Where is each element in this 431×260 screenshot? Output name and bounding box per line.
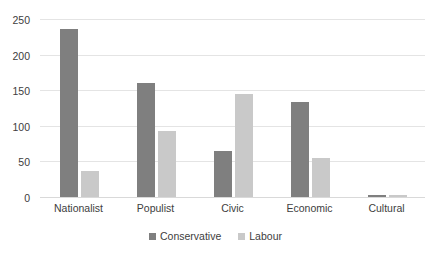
x-tick-label: Populist [137,202,174,215]
x-tick-label: Nationalist [54,202,103,215]
x-tick-label: Civic [221,202,244,215]
bar-group [117,20,194,198]
legend-entry[interactable]: Labour [238,230,282,242]
bar-group [348,20,425,198]
legend-swatch-icon [238,233,245,240]
y-tick-label: 100 [12,121,30,132]
legend-label: Labour [249,230,282,242]
y-tick-label: 250 [12,15,30,26]
bar [214,151,232,198]
bar-group [271,20,348,198]
y-tick-label: 50 [18,157,30,168]
bar [81,171,99,198]
bar [60,29,78,198]
axis-baseline [40,197,425,198]
legend-label: Conservative [160,230,221,242]
bar [291,102,309,198]
legend-entry[interactable]: Conservative [149,230,221,242]
bar [137,83,155,198]
bar [235,94,253,198]
bar-group [40,20,117,198]
bar-group [194,20,271,198]
plot-area [40,20,425,198]
y-tick-label: 0 [24,193,30,204]
y-tick-label: 200 [12,50,30,61]
x-tick-label: Cultural [368,202,404,215]
bar [158,131,176,198]
y-tick-label: 150 [12,86,30,97]
legend: ConservativeLabour [0,230,431,242]
legend-swatch-icon [149,233,156,240]
y-axis: 050100150200250 [0,0,36,198]
x-tick-label: Economic [286,202,332,215]
bar [312,158,330,198]
x-axis: NationalistPopulistCivicEconomicCultural [40,202,425,220]
bar-chart: 050100150200250 NationalistPopulistCivic… [0,0,431,260]
